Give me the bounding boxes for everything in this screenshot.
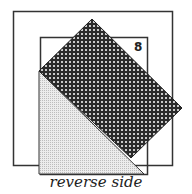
caption: reverse side bbox=[0, 173, 192, 191]
square-number-label: 8 bbox=[134, 40, 142, 54]
diagram-figure bbox=[0, 0, 192, 194]
